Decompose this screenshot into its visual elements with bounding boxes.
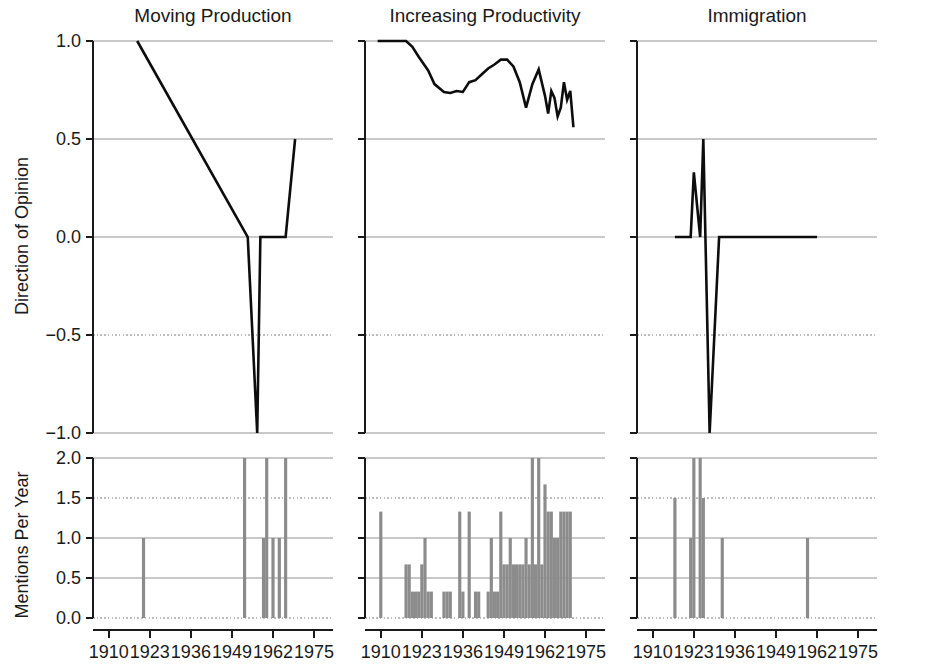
opinion-line xyxy=(378,41,574,127)
bottom-y-tick-label: 1.5 xyxy=(56,488,81,508)
mentions-bar xyxy=(474,592,477,618)
mentions-bar xyxy=(562,512,565,618)
mentions-bar xyxy=(499,512,502,618)
bottom-y-tick-label: 0.0 xyxy=(56,608,81,628)
mentions-bar xyxy=(271,538,274,618)
mentions-bar xyxy=(420,564,423,618)
x-tick-label: 1975 xyxy=(294,642,334,662)
mentions-bar xyxy=(531,458,534,618)
bottom-y-tick-label: 1.0 xyxy=(56,528,81,548)
mentions-bar xyxy=(569,512,572,618)
mentions-bar xyxy=(458,512,461,618)
mentions-bar xyxy=(721,538,724,618)
mentions-bar xyxy=(556,538,559,618)
figure-root: Direction of Opinion Mentions Per Year M… xyxy=(0,0,932,667)
mentions-bar xyxy=(518,564,521,618)
mentions-bar xyxy=(278,538,281,618)
x-tick-label: 1923 xyxy=(402,642,442,662)
mentions-bar xyxy=(417,592,420,618)
mentions-bar xyxy=(243,458,246,618)
top-y-tick-label: 0.0 xyxy=(56,227,81,247)
mentions-bar xyxy=(521,564,524,618)
mentions-bar xyxy=(468,512,471,618)
mentions-bar xyxy=(493,592,496,618)
top-y-tick-label: 1.0 xyxy=(56,31,81,51)
mentions-bar xyxy=(142,538,145,618)
panel-1: Moving Production1.00.50.0−0.5−1.02.01.5… xyxy=(45,5,334,662)
x-tick-label: 1949 xyxy=(212,642,252,662)
chart-svg: Direction of Opinion Mentions Per Year M… xyxy=(0,0,932,667)
x-tick-label: 1923 xyxy=(674,642,714,662)
mentions-bar xyxy=(528,564,531,618)
mentions-bar xyxy=(379,512,382,618)
mentions-bar xyxy=(477,592,480,618)
mentions-bar xyxy=(461,592,464,618)
mentions-bar xyxy=(699,458,702,618)
x-tick-label: 1975 xyxy=(566,642,606,662)
mentions-bar xyxy=(806,538,809,618)
top-y-axis-title: Direction of Opinion xyxy=(12,157,32,315)
mentions-bar xyxy=(262,538,265,618)
mentions-bar xyxy=(543,484,546,618)
mentions-bar xyxy=(423,538,426,618)
mentions-bar xyxy=(689,538,692,618)
x-tick-label: 1962 xyxy=(525,642,565,662)
mentions-bar xyxy=(559,512,562,618)
mentions-bar xyxy=(553,538,556,618)
mentions-bar xyxy=(537,458,540,618)
mentions-bar xyxy=(430,592,433,618)
panel-2: Increasing Productivity19101923193619491… xyxy=(358,5,606,662)
x-tick-label: 1936 xyxy=(715,642,755,662)
mentions-bar xyxy=(550,512,553,618)
mentions-bar xyxy=(427,592,430,618)
top-y-tick-label: −1.0 xyxy=(45,423,81,443)
x-tick-label: 1936 xyxy=(443,642,483,662)
mentions-bar xyxy=(449,592,452,618)
panels-layer: Moving Production1.00.50.0−0.5−1.02.01.5… xyxy=(45,5,878,662)
mentions-bar xyxy=(509,538,512,618)
x-tick-label: 1949 xyxy=(756,642,796,662)
bottom-y-tick-label: 2.0 xyxy=(56,448,81,468)
x-tick-label: 1975 xyxy=(838,642,878,662)
mentions-bar xyxy=(408,564,411,618)
x-tick-label: 1962 xyxy=(797,642,837,662)
mentions-bar xyxy=(404,564,407,618)
opinion-line xyxy=(675,139,817,433)
mentions-bar xyxy=(692,458,695,618)
mentions-bar xyxy=(265,458,268,618)
mentions-bar xyxy=(442,592,445,618)
mentions-bar xyxy=(515,564,518,618)
mentions-bar xyxy=(496,592,499,618)
x-tick-label: 1936 xyxy=(171,642,211,662)
mentions-bar xyxy=(673,498,676,618)
x-tick-label: 1949 xyxy=(484,642,524,662)
x-tick-label: 1910 xyxy=(633,642,673,662)
mentions-bar xyxy=(702,498,705,618)
mentions-bar xyxy=(512,564,515,618)
x-tick-label: 1923 xyxy=(130,642,170,662)
x-tick-label: 1910 xyxy=(361,642,401,662)
mentions-bar xyxy=(524,538,527,618)
bottom-y-axis-title: Mentions Per Year xyxy=(12,471,32,618)
mentions-bar xyxy=(534,564,537,618)
mentions-bar xyxy=(547,512,550,618)
panel-title: Moving Production xyxy=(134,5,291,26)
mentions-bar xyxy=(487,592,490,618)
panel-title: Increasing Productivity xyxy=(389,5,581,26)
mentions-bar xyxy=(502,564,505,618)
mentions-bar xyxy=(446,592,449,618)
mentions-bar xyxy=(540,564,543,618)
panel-3: Immigration191019231936194919621975 xyxy=(630,5,878,662)
bottom-y-tick-label: 0.5 xyxy=(56,568,81,588)
top-y-tick-label: −0.5 xyxy=(45,325,81,345)
mentions-bar xyxy=(566,512,569,618)
mentions-bar xyxy=(411,592,414,618)
panel-title: Immigration xyxy=(707,5,806,26)
mentions-bar xyxy=(414,592,417,618)
x-tick-label: 1910 xyxy=(89,642,129,662)
mentions-bar xyxy=(284,458,287,618)
top-y-tick-label: 0.5 xyxy=(56,129,81,149)
mentions-bar xyxy=(506,564,509,618)
mentions-bar xyxy=(490,538,493,618)
x-tick-label: 1962 xyxy=(253,642,293,662)
